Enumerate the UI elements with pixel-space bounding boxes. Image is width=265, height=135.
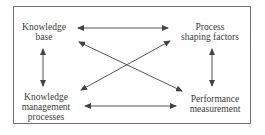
node-label-line: processes bbox=[18, 112, 74, 122]
node-process-shaping-factors: Process shaping factors bbox=[173, 22, 247, 42]
node-label-line: Process bbox=[173, 22, 247, 32]
node-label-line: management bbox=[18, 102, 74, 112]
node-label-line: Knowledge bbox=[18, 92, 74, 102]
node-label-line: measurement bbox=[187, 104, 243, 114]
node-label-line: shaping factors bbox=[173, 32, 247, 42]
node-label-line: Knowledge bbox=[22, 22, 66, 32]
arrow-psf-kmp bbox=[81, 41, 170, 90]
node-knowledge-base: Knowledge base bbox=[22, 22, 66, 42]
node-knowledge-management-processes: Knowledge management processes bbox=[18, 92, 74, 122]
arrow-kb-pm bbox=[79, 42, 182, 91]
node-label-line: base bbox=[22, 32, 66, 42]
node-label-line: Performance bbox=[187, 94, 243, 104]
node-performance-measurement: Performance measurement bbox=[187, 94, 243, 114]
